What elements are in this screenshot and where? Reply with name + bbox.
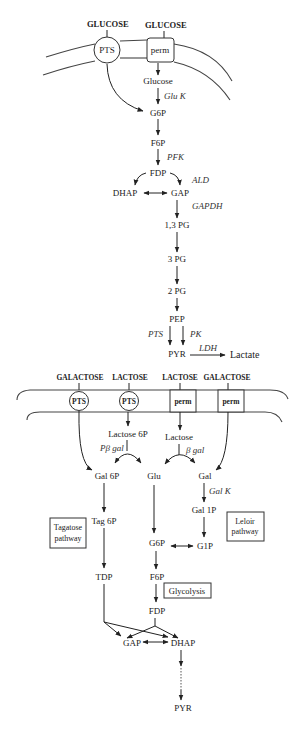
enzyme-gluk: Glu K bbox=[164, 91, 187, 101]
arrow-lactose-split bbox=[165, 455, 195, 464]
enzyme-galk: Gal K bbox=[209, 486, 232, 496]
membrane-outer-right bbox=[174, 44, 232, 81]
enzyme-pk: PK bbox=[189, 329, 202, 339]
enzyme-ald: ALD bbox=[191, 175, 210, 185]
arrow-pts-g6p bbox=[107, 64, 143, 111]
metabolite-pyr-lower: PYR bbox=[174, 703, 192, 713]
tagatose-label-line2: pathway bbox=[54, 534, 81, 543]
pts-label: PTS bbox=[99, 45, 115, 55]
enzyme-bgal: β gal bbox=[185, 445, 205, 455]
leloir-label-line2: pathway bbox=[231, 527, 258, 536]
substrate-glucose-pts: GLUCOSE bbox=[87, 19, 129, 29]
enzyme-pts: PTS bbox=[147, 329, 164, 339]
arrow-fdp-gap bbox=[127, 626, 155, 638]
enzyme-pbgal: Pβ gal bbox=[99, 443, 124, 453]
metabolite-g6p-lower: G6P bbox=[149, 538, 165, 548]
substrate-galactose-perm: GALACTOSE bbox=[204, 373, 251, 382]
perm-label: perm bbox=[174, 397, 192, 406]
enzyme-pfk: PFK bbox=[166, 152, 185, 162]
arrow-perm-gal bbox=[216, 412, 228, 470]
metabolite-lactate: Lactate bbox=[230, 349, 260, 360]
arrow-pts-gal6p bbox=[79, 411, 92, 470]
glucose-uptake-section: GLUCOSE GLUCOSE PTS perm bbox=[43, 19, 232, 111]
metabolite-fdp: FDP bbox=[150, 168, 167, 178]
metabolite-f6p: F6P bbox=[151, 138, 166, 148]
metabolic-pathway-diagram: GLUCOSE GLUCOSE PTS perm Glucose Glu K G… bbox=[0, 0, 303, 731]
enzyme-ldh: LDH bbox=[198, 343, 218, 353]
metabolite-dhap: DHAP bbox=[113, 188, 138, 198]
metabolite-gal: Gal bbox=[199, 471, 212, 481]
membrane-outer-mid bbox=[120, 40, 147, 41]
substrate-lactose-perm: LACTOSE bbox=[162, 373, 198, 382]
metabolite-glucose: Glucose bbox=[143, 76, 173, 86]
metabolite-tdp: TDP bbox=[95, 572, 112, 582]
substrate-lactose-pts: LACTOSE bbox=[112, 373, 148, 382]
arrow-fdp-dhap bbox=[135, 173, 146, 185]
metabolite-3pg: 3 PG bbox=[168, 254, 187, 264]
metabolite-lactose: Lactose bbox=[165, 432, 193, 442]
glycolysis-section: Glucose Glu K G6P F6P PFK FDP ALD DHAP G… bbox=[113, 76, 260, 360]
metabolite-tag6p: Tag 6P bbox=[91, 516, 116, 526]
leloir-label-line1: Leloir bbox=[235, 517, 255, 526]
metabolite-2pg: 2 PG bbox=[168, 286, 187, 296]
membrane-inner bbox=[27, 412, 282, 422]
metabolite-gal1p: Gal 1P bbox=[192, 505, 217, 515]
metabolite-glu: Glu bbox=[147, 471, 161, 481]
metabolite-13pg: 1,3 PG bbox=[164, 220, 190, 230]
pts-label: PTS bbox=[122, 397, 136, 406]
metabolite-g6p: G6P bbox=[150, 108, 166, 118]
metabolite-gap-lower: GAP bbox=[123, 638, 141, 648]
lower-pathways-section: Lactose 6P Lactose Pβ gal β gal Gal 6P G… bbox=[50, 411, 264, 713]
membrane-outer bbox=[17, 390, 288, 400]
tagatose-label-line1: Tagatose bbox=[54, 523, 83, 532]
substrate-galactose-pts: GALACTOSE bbox=[57, 373, 104, 382]
substrate-glucose-perm: GLUCOSE bbox=[145, 20, 187, 30]
perm-label: perm bbox=[151, 45, 170, 55]
glycolysis-label: Glycolysis bbox=[169, 586, 205, 596]
pts-label: PTS bbox=[72, 397, 86, 406]
metabolite-gap: GAP bbox=[171, 188, 189, 198]
metabolite-pyr: PYR bbox=[168, 349, 186, 359]
perm-label: perm bbox=[222, 397, 240, 406]
metabolite-gal6p: Gal 6P bbox=[95, 471, 120, 481]
enzyme-gapdh: GAPDH bbox=[192, 201, 223, 211]
metabolite-fdp-lower: FDP bbox=[149, 606, 166, 616]
lactose-galactose-uptake-section: GALACTOSE LACTOSE LACTOSE GALACTOSE PTS … bbox=[17, 373, 288, 430]
metabolite-pep: PEP bbox=[169, 314, 185, 324]
membrane-inner-left bbox=[43, 61, 95, 75]
metabolite-g1p: G1P bbox=[197, 541, 213, 551]
arrow-lactose6p-split bbox=[115, 454, 141, 463]
arrow-fdp-gap bbox=[170, 173, 180, 185]
metabolite-lactose6p: Lactose 6P bbox=[108, 429, 148, 439]
membrane-outer-left bbox=[46, 44, 95, 57]
metabolite-f6p-lower: F6P bbox=[150, 572, 165, 582]
metabolite-dhap-lower: DHAP bbox=[171, 638, 196, 648]
